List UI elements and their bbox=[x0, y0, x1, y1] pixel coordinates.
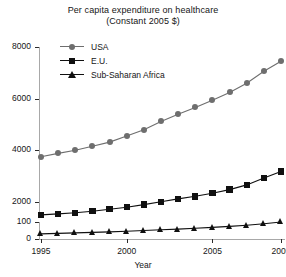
chart-figure: Per capita expenditure on healthcare (Co… bbox=[0, 0, 286, 277]
data-point bbox=[158, 199, 164, 205]
data-point bbox=[227, 89, 233, 95]
x-axis-tick bbox=[41, 239, 42, 243]
chart-legend: USAE.U.Sub-Saharan Africa bbox=[60, 40, 165, 82]
data-point bbox=[106, 206, 112, 212]
y-axis-tick-label: 100 bbox=[0, 216, 31, 226]
x-axis-tick-label: 2009 bbox=[261, 246, 286, 256]
data-point bbox=[243, 222, 249, 228]
x-axis-tick-label: 2005 bbox=[192, 246, 232, 256]
y-axis-tick bbox=[35, 150, 39, 151]
x-axis-title: Year bbox=[0, 260, 286, 270]
data-point bbox=[174, 226, 180, 232]
x-axis-tick-label: 2000 bbox=[107, 246, 147, 256]
data-point bbox=[158, 118, 164, 124]
legend-marker-triangle-icon bbox=[60, 68, 84, 82]
x-axis-spine bbox=[39, 239, 285, 240]
data-point bbox=[277, 218, 283, 224]
legend-label: E.U. bbox=[91, 56, 108, 66]
data-point bbox=[54, 230, 60, 236]
y-axis-tick-label: 0 bbox=[0, 233, 31, 243]
data-point bbox=[55, 150, 61, 156]
legend-label: Sub-Saharan Africa bbox=[91, 70, 165, 80]
data-point bbox=[209, 224, 215, 230]
y-axis-tick-label: 2000 bbox=[0, 196, 31, 206]
x-axis-tick bbox=[212, 239, 213, 243]
series-line-sub-saharan-africa bbox=[41, 222, 281, 234]
data-point bbox=[89, 143, 95, 149]
data-point bbox=[71, 229, 77, 235]
data-point bbox=[141, 127, 147, 133]
data-point bbox=[226, 186, 232, 192]
data-point bbox=[123, 228, 129, 234]
data-point bbox=[175, 111, 181, 117]
data-point bbox=[192, 104, 198, 110]
legend-item-usa[interactable]: USA bbox=[60, 40, 165, 54]
data-point bbox=[106, 228, 112, 234]
y-axis-tick bbox=[35, 99, 39, 100]
data-point bbox=[140, 227, 146, 233]
data-point bbox=[72, 147, 78, 153]
data-point bbox=[175, 196, 181, 202]
legend-marker-square-icon bbox=[60, 54, 84, 68]
y-axis-tick bbox=[35, 47, 39, 48]
y-axis-tick-label: 6000 bbox=[0, 93, 31, 103]
data-point bbox=[244, 80, 250, 86]
y-axis-tick-label: 8000 bbox=[0, 41, 31, 51]
data-point bbox=[209, 97, 215, 103]
data-point bbox=[260, 220, 266, 226]
legend-item-e-u[interactable]: E.U. bbox=[60, 54, 165, 68]
data-point bbox=[141, 201, 147, 207]
series-line-e-u bbox=[41, 172, 281, 215]
data-point bbox=[192, 193, 198, 199]
legend-marker-circle-icon bbox=[60, 40, 84, 54]
data-point bbox=[209, 190, 215, 196]
data-point bbox=[261, 175, 267, 181]
data-point bbox=[157, 226, 163, 232]
x-axis-tick-label: 1995 bbox=[21, 246, 61, 256]
data-point bbox=[124, 204, 130, 210]
y-axis-tick bbox=[35, 239, 39, 240]
chart-subtitle: (Constant 2005 $) bbox=[0, 16, 286, 27]
data-point bbox=[124, 133, 130, 139]
data-point bbox=[191, 225, 197, 231]
y-axis-spine-lower bbox=[39, 222, 40, 240]
data-point bbox=[72, 210, 78, 216]
y-axis-tick bbox=[35, 222, 39, 223]
x-axis-tick bbox=[281, 239, 282, 243]
y-axis-tick bbox=[35, 202, 39, 203]
data-point bbox=[55, 211, 61, 217]
data-point bbox=[244, 182, 250, 188]
legend-item-sub-saharan-africa[interactable]: Sub-Saharan Africa bbox=[60, 68, 165, 82]
data-point bbox=[89, 208, 95, 214]
chart-title-block: Per capita expenditure on healthcare (Co… bbox=[0, 5, 286, 27]
data-point bbox=[226, 223, 232, 229]
data-point bbox=[107, 139, 113, 145]
data-point bbox=[278, 58, 284, 64]
legend-label: USA bbox=[91, 42, 108, 52]
data-point bbox=[261, 68, 267, 74]
chart-title: Per capita expenditure on healthcare bbox=[0, 5, 286, 16]
data-point bbox=[278, 168, 284, 174]
x-axis-tick bbox=[127, 239, 128, 243]
y-axis-tick-label: 4000 bbox=[0, 144, 31, 154]
y-axis-spine-upper bbox=[39, 47, 40, 214]
data-point bbox=[89, 229, 95, 235]
